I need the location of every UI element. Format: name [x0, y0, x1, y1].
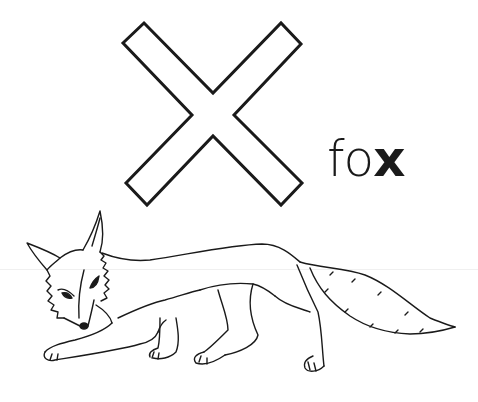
alphabet-page: fox: [0, 0, 478, 402]
fox-illustration: [0, 0, 478, 402]
